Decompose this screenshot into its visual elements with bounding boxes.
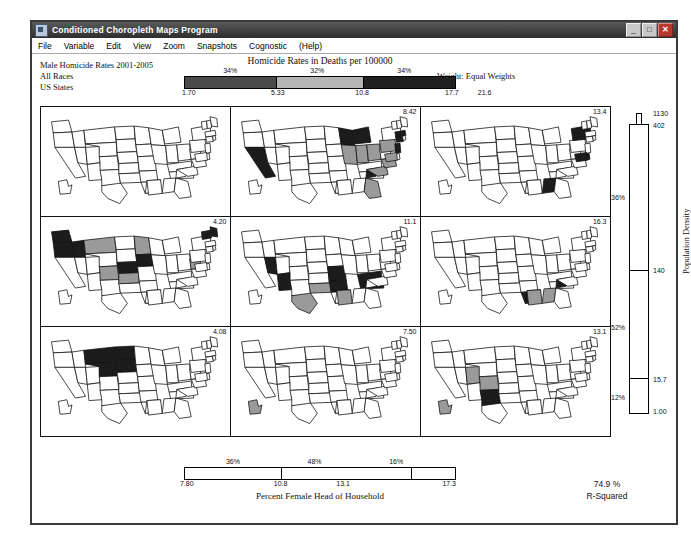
panel-r3c2[interactable]: 7.50	[230, 326, 421, 437]
state-fl[interactable]	[364, 288, 381, 308]
panel-r1c3[interactable]: 13.4	[420, 106, 611, 217]
state-nj[interactable]	[205, 253, 211, 263]
state-ri[interactable]	[593, 245, 596, 250]
state-mi[interactable]	[352, 347, 371, 364]
state-nj[interactable]	[205, 363, 211, 373]
state-oh[interactable]	[367, 144, 381, 161]
state-al[interactable]	[147, 400, 162, 415]
state-co[interactable]	[99, 266, 119, 280]
state-ga[interactable]	[542, 178, 556, 193]
state-ga[interactable]	[352, 178, 366, 193]
state-ga[interactable]	[162, 288, 176, 303]
state-md[interactable]	[575, 262, 588, 271]
state-ri[interactable]	[593, 355, 596, 360]
state-az[interactable]	[87, 383, 101, 401]
state-nd[interactable]	[495, 346, 515, 360]
state-ct[interactable]	[206, 136, 214, 142]
state-nd[interactable]	[115, 346, 135, 360]
state-wa[interactable]	[52, 230, 72, 243]
state-az[interactable]	[87, 163, 101, 181]
state-mt[interactable]	[84, 347, 116, 364]
state-mt[interactable]	[274, 127, 306, 144]
state-mi[interactable]	[162, 127, 181, 144]
state-ne[interactable]	[307, 372, 328, 384]
state-nj[interactable]	[585, 143, 591, 153]
state-nd[interactable]	[495, 126, 515, 140]
state-or[interactable]	[53, 242, 74, 257]
state-tx[interactable]	[482, 183, 508, 203]
state-ne[interactable]	[307, 262, 328, 274]
state-ks[interactable]	[119, 163, 139, 174]
state-in[interactable]	[546, 145, 559, 163]
state-or[interactable]	[243, 352, 264, 367]
state-in[interactable]	[356, 255, 369, 273]
state-pa[interactable]	[570, 249, 587, 263]
state-fl[interactable]	[174, 398, 191, 418]
state-or[interactable]	[53, 352, 74, 367]
state-sd[interactable]	[116, 249, 136, 263]
state-az[interactable]	[467, 383, 481, 401]
state-pa[interactable]	[190, 249, 207, 263]
state-ut[interactable]	[86, 147, 100, 165]
state-in[interactable]	[546, 365, 559, 383]
state-ga[interactable]	[352, 288, 366, 303]
state-ga[interactable]	[162, 178, 176, 193]
state-id[interactable]	[72, 350, 86, 367]
state-mt[interactable]	[84, 237, 116, 254]
state-tx[interactable]	[102, 183, 128, 203]
top-segment-3[interactable]	[363, 77, 455, 88]
state-ok[interactable]	[499, 393, 523, 403]
state-mi[interactable]	[542, 347, 561, 364]
state-nd[interactable]	[305, 126, 325, 140]
state-mt[interactable]	[84, 127, 116, 144]
state-co[interactable]	[479, 266, 499, 280]
state-al[interactable]	[147, 290, 162, 305]
state-mt[interactable]	[464, 127, 496, 144]
state-wa[interactable]	[432, 230, 452, 243]
state-fl[interactable]	[554, 288, 571, 308]
state-id[interactable]	[72, 240, 86, 257]
state-ne[interactable]	[497, 152, 518, 164]
state-ks[interactable]	[499, 273, 519, 284]
state-ct[interactable]	[586, 136, 594, 142]
state-ut[interactable]	[466, 147, 480, 165]
state-ne[interactable]	[497, 372, 518, 384]
state-md[interactable]	[575, 372, 588, 381]
state-nj[interactable]	[205, 143, 211, 153]
state-ak[interactable]	[58, 290, 72, 304]
top-slider[interactable]: Homicide Rates in Deaths per 100000 34% …	[184, 56, 456, 99]
state-oh[interactable]	[557, 254, 571, 271]
state-fl[interactable]	[364, 398, 381, 418]
state-al[interactable]	[337, 400, 352, 415]
state-fl[interactable]	[554, 398, 571, 418]
state-ct[interactable]	[396, 136, 404, 142]
state-in[interactable]	[356, 365, 369, 383]
state-mt[interactable]	[464, 237, 496, 254]
panel-r2c1[interactable]: 4.20	[40, 216, 231, 327]
state-in[interactable]	[166, 255, 179, 273]
state-id[interactable]	[452, 240, 466, 257]
state-mi[interactable]	[352, 237, 371, 254]
state-sd[interactable]	[306, 139, 326, 153]
state-id[interactable]	[72, 130, 86, 147]
state-ks[interactable]	[499, 383, 519, 394]
state-ri[interactable]	[213, 355, 216, 360]
state-az[interactable]	[467, 163, 481, 181]
state-sd[interactable]	[496, 139, 516, 153]
panel-r1c2[interactable]: 8.42	[230, 106, 421, 217]
state-az[interactable]	[467, 273, 481, 291]
top-segment-1[interactable]	[185, 77, 276, 88]
state-co[interactable]	[289, 266, 309, 280]
state-mi[interactable]	[162, 347, 181, 364]
state-ok[interactable]	[309, 283, 333, 293]
state-ut[interactable]	[86, 367, 100, 385]
state-id[interactable]	[262, 240, 276, 257]
state-ri[interactable]	[213, 245, 216, 250]
state-ak[interactable]	[438, 400, 452, 414]
state-ri[interactable]	[213, 135, 216, 140]
state-tx[interactable]	[102, 293, 128, 313]
state-or[interactable]	[243, 132, 264, 147]
state-ks[interactable]	[309, 383, 329, 394]
state-ak[interactable]	[438, 290, 452, 304]
state-mi[interactable]	[162, 237, 181, 254]
